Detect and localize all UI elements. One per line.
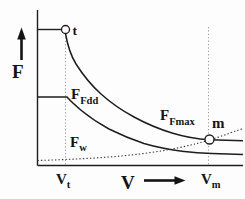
x-axis-label: V bbox=[121, 172, 135, 193]
ffmax-label-sub: Fmax bbox=[169, 116, 195, 127]
fw-label-sub: w bbox=[79, 142, 87, 153]
vt-label-base: V bbox=[56, 171, 67, 187]
point-m-label: m bbox=[212, 115, 225, 131]
ffmax-curve-label: FFmax bbox=[160, 107, 196, 127]
fw-curve bbox=[38, 129, 244, 161]
vt-tick-label: Vt bbox=[56, 171, 71, 190]
fw-label-base: F bbox=[70, 134, 79, 150]
ffdd-label-sub: Fdd bbox=[80, 95, 98, 106]
vm-tick-label: Vm bbox=[201, 171, 221, 190]
force-velocity-chart: F V t m FFdd FFmax Fw Vt Vm bbox=[0, 0, 245, 199]
f-axis-arrow-icon bbox=[17, 28, 26, 40]
vm-label-base: V bbox=[201, 171, 212, 187]
ffdd-label-base: F bbox=[71, 86, 80, 102]
ffdd-curve-label: FFdd bbox=[71, 86, 98, 106]
y-axis-label: F bbox=[12, 61, 24, 82]
v-axis-arrow-icon bbox=[175, 176, 186, 185]
point-t-marker bbox=[62, 26, 70, 34]
vt-label-sub: t bbox=[67, 179, 71, 190]
point-m-marker bbox=[205, 135, 214, 144]
fw-curve-label: Fw bbox=[70, 134, 87, 153]
vm-label-sub: m bbox=[212, 179, 221, 190]
force-velocity-figure: F V t m FFdd FFmax Fw Vt Vm bbox=[0, 0, 245, 199]
point-t-label: t bbox=[73, 23, 78, 38]
ffmax-label-base: F bbox=[160, 107, 169, 123]
